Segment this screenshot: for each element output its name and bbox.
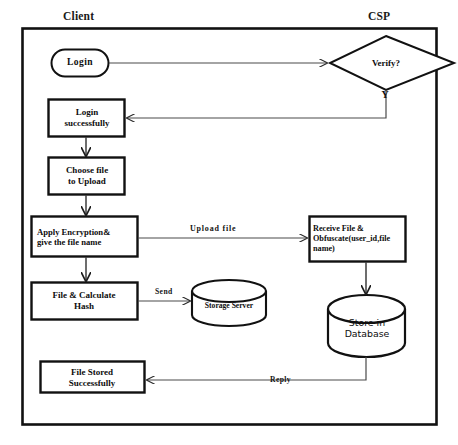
node-login[interactable]: [52, 50, 109, 77]
node-choose-file[interactable]: [49, 158, 125, 195]
node-apply-encryption[interactable]: [32, 217, 138, 257]
node-file-stored[interactable]: [41, 362, 145, 393]
diagram-canvas: Client CSP Login Login successfully Choo…: [0, 0, 458, 445]
node-login-successfully[interactable]: [49, 100, 125, 137]
node-storage-server[interactable]: [192, 280, 266, 326]
node-receive-file[interactable]: [310, 217, 406, 262]
lane-label-client: Client: [63, 10, 94, 22]
node-calculate-hash[interactable]: [32, 283, 138, 320]
lane-label-csp: CSP: [368, 10, 390, 22]
node-store-in-database[interactable]: [328, 295, 405, 357]
flowchart-svg: [0, 0, 458, 445]
